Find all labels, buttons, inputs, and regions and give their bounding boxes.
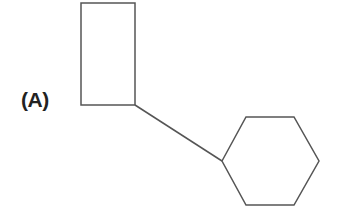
diagram — [0, 0, 352, 224]
rectangle-shape — [81, 3, 135, 105]
hexagon-shape — [222, 117, 319, 205]
connector-line — [135, 105, 222, 161]
